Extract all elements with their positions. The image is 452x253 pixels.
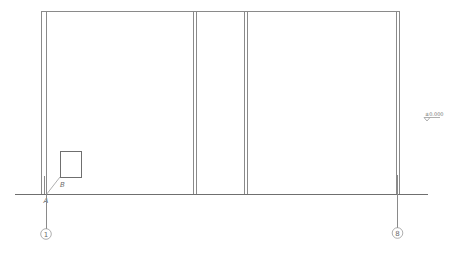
elevation-text: ±0.000 — [425, 111, 444, 117]
detail-box — [61, 152, 82, 178]
column-right — [397, 11, 400, 194]
column-mid-left — [194, 11, 197, 194]
elevation-marker: ±0.000 — [424, 111, 444, 121]
point-label-a: A — [43, 197, 49, 205]
elevation-triangle-icon — [424, 118, 430, 122]
axis-label-8: 8 — [395, 230, 399, 238]
axis-label-1: 1 — [44, 231, 48, 239]
column-mid-right — [245, 11, 248, 194]
elevation-drawing: B A 1 8 ±0.000 — [0, 0, 452, 253]
leader-line — [46, 177, 60, 195]
point-label-b: B — [60, 181, 65, 189]
column-left — [42, 11, 47, 194]
axis-marker-8: 8 — [392, 175, 403, 238]
